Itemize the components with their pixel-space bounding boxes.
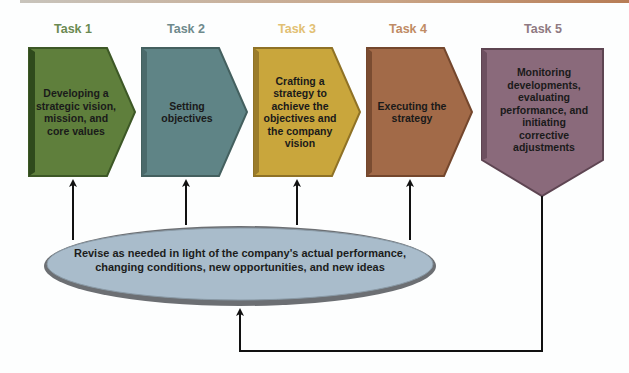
task-5-text: Monitoring developments, evaluating perf… — [498, 56, 590, 164]
task-1-text: Developing a strategic vision, mission, … — [36, 56, 116, 168]
task-3-text: Crafting a strategy to achieve the objec… — [259, 56, 341, 168]
task-4-text: Executing the strategy — [372, 56, 452, 168]
task-2-text: Setting objectives — [147, 56, 227, 168]
feedback-text: Revise as needed in light of the company… — [70, 246, 410, 274]
